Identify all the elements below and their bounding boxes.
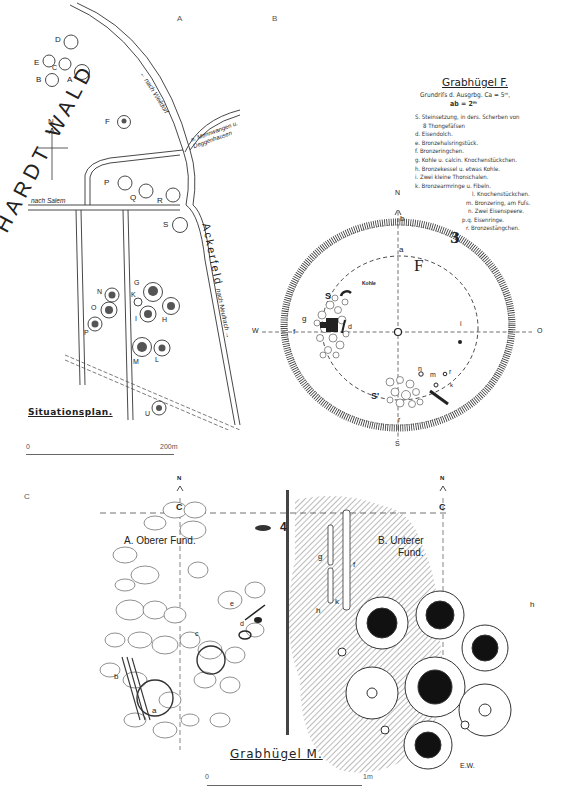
scale-line	[207, 785, 362, 786]
panel-a-site-plan: D E C B A F P Q R S N O P G K I H M L U …	[0, 0, 250, 430]
signature: E.W.	[460, 762, 475, 769]
mound-label-n: N	[97, 288, 102, 295]
find-label-m: n	[418, 365, 422, 372]
label-c: c	[195, 630, 199, 637]
label-k: k	[335, 597, 339, 606]
mound-f-legend: S. Steinsetzung, in ders. Scherben von 8…	[415, 113, 564, 190]
mound-label-c: C	[52, 64, 57, 71]
mound-label-b: B	[36, 75, 41, 84]
legend-item: g. Kohle u. calcin. Knochenstückchen.	[415, 156, 564, 165]
panel-letter-b: B	[272, 14, 277, 23]
kohle-label: Kohle	[362, 280, 376, 286]
find-label-k: k	[450, 382, 453, 388]
mound-f-title: Grabhügel F.	[420, 76, 530, 88]
legend-item: 8 Thongefäſsen	[415, 122, 564, 131]
find-label-f: f	[293, 327, 295, 336]
mound-m-drawing	[80, 480, 564, 780]
legend-item: i. Zwei kleine Thonschalen.	[415, 173, 564, 182]
legend-item: f. Bronzeringchen.	[415, 147, 564, 156]
mound-label-d: D	[55, 35, 61, 44]
scale-start: 0	[205, 773, 209, 780]
road-label-salem: nach Salem	[31, 197, 65, 204]
point-a: a	[399, 245, 403, 254]
mound-label-o: O	[91, 304, 96, 311]
compass-east: O	[537, 327, 542, 334]
site-plan-title: Situationsplan.	[28, 407, 113, 417]
find-label-t: i	[460, 320, 462, 327]
label-d: d	[240, 620, 244, 627]
find-label-q: r	[449, 368, 451, 375]
mound-f-subtitle-1: Grundriſs d. Ausgrbg. Ca = 5ᵐ,	[420, 91, 560, 100]
legend-item: S. Steinsetzung, in ders. Scherben von	[415, 113, 564, 122]
find-label-r: r	[398, 416, 400, 423]
north-label-upper: N	[177, 475, 181, 481]
compass-north: N	[395, 189, 400, 196]
mound-label-f: F	[105, 117, 110, 126]
legend-item: l. Knochenstückchen.	[466, 190, 564, 199]
scale-line	[26, 454, 174, 455]
scale-end: 200m	[160, 443, 178, 450]
label-b: b	[114, 672, 118, 681]
mound-f-drawing	[250, 210, 564, 440]
label-a: a	[152, 706, 156, 715]
find-label-g: g	[302, 314, 306, 323]
mound-m-title: Grabhügel M.	[230, 747, 323, 761]
mound-label-p: P	[84, 329, 89, 336]
mound-label-u: U	[145, 410, 150, 417]
panel-b-mound-f-title: Grabhügel F. Grundriſs d. Ausgrbg. Ca = …	[420, 76, 560, 108]
lower-find-label-2: Fund.	[398, 547, 424, 558]
compass-west: W	[252, 327, 259, 334]
label-g: g	[318, 552, 322, 561]
scale-bar-a: 0 200m	[26, 443, 186, 457]
point-b: b	[400, 214, 404, 223]
mound-label-q: P	[104, 178, 109, 187]
mound-number: 3	[450, 230, 460, 246]
scale-end: 1m	[363, 773, 373, 780]
upper-find-label: A. Oberer Fund.	[124, 535, 196, 546]
lower-find-label-1: B. Unterer	[378, 535, 424, 546]
find-label-d: d	[348, 323, 352, 330]
label-e: e	[230, 600, 234, 607]
panel-letter-c: C	[24, 492, 30, 501]
center-label-upper: C	[176, 502, 183, 512]
mound-label-l: L	[155, 356, 159, 363]
mound-label-t: S	[163, 220, 168, 229]
legend-item: h. Bronzekessel u. etwas Kohle.	[415, 165, 564, 174]
mound-label-i: I	[135, 315, 137, 322]
mound-label-e: E	[34, 58, 39, 67]
mound-f-subtitle-2: ab = 2ᵐ	[420, 100, 560, 109]
center-label-lower: C	[439, 502, 446, 512]
label-h-right: h	[530, 600, 534, 609]
mound-label-r: Q	[130, 193, 136, 202]
compass-south: S	[395, 440, 400, 447]
panel-c-mound-m-plan: N N C C 4 A. Oberer Fund. B. Unterer Fun…	[80, 480, 564, 780]
label-h-left: h	[316, 606, 320, 615]
mound-label-h: H	[162, 316, 167, 323]
find-label-s-prime: S'	[371, 391, 379, 401]
north-label-lower: N	[440, 475, 444, 481]
mound-number: 4	[280, 520, 287, 534]
panel-b-mound-f-plan: N S W O b a 3 F Kohle S S' d f g i n m r…	[250, 210, 564, 440]
find-label-s: S	[325, 291, 331, 301]
legend-item: e. Bronzehalsringstück.	[415, 139, 564, 148]
legend-item: d. Eisendolch.	[415, 130, 564, 139]
mound-label-s: R	[157, 196, 163, 205]
legend-item: m. Bronzering, am Fuſs.	[466, 199, 564, 208]
find-label-l: m	[430, 371, 436, 378]
mound-label-k: K	[131, 291, 136, 298]
mound-label-g: G	[134, 279, 139, 286]
scale-bar-c: 0 1m	[205, 773, 370, 789]
label-f: f	[353, 560, 355, 569]
mound-letter: F	[414, 256, 423, 276]
scale-start: 0	[26, 443, 30, 450]
mound-label-m: M	[133, 358, 139, 365]
